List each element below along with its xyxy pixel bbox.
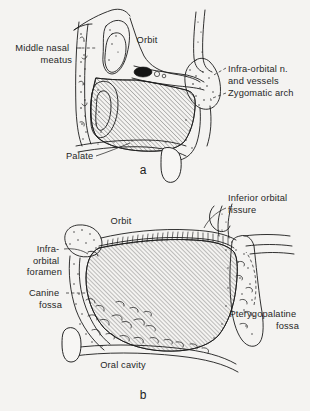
svg-text:Infra-orbital n. and ves: Infra-orbital n. and vessels [228, 64, 291, 86]
panel-b-drawing [62, 204, 294, 372]
panel-letter-a: a [140, 163, 147, 177]
svg-text:Pterygopalatine fossa: Pterygopalatine fossa [229, 309, 299, 331]
label-middle-nasal-meatus-line1: Middle nasal [15, 43, 69, 53]
anatomical-figure: Middle nasal meatus Orbit Infra-orbital … [0, 0, 310, 411]
label-inferior-orbital-fissure-line2: fissure [228, 205, 256, 215]
label-middle-nasal-meatus-line2: meatus [41, 55, 73, 65]
svg-text:Middle nasal meatus: Middle nasal meatus [15, 43, 72, 65]
label-canine-fossa-line1: Canine [29, 288, 59, 298]
label-palate: Palate [66, 151, 93, 161]
label-orbit-b: Orbit [111, 216, 132, 226]
svg-text:Canine fossa: Canine fossa [29, 288, 63, 310]
leader-infra-orbital-foramen [64, 249, 88, 254]
label-infra-orbital-nerve-line2: and vessels [228, 76, 279, 86]
leader-inferior-orbital-fissure [204, 208, 226, 228]
label-pterygopalatine-fossa-line1: Pterygopalatine [229, 309, 296, 319]
label-infra-orbital-foramen-line1: Infra- [37, 244, 60, 254]
label-pterygopalatine-fossa-line2: fossa [276, 321, 300, 331]
infra-orbital-bundle [134, 67, 152, 77]
label-orbit-a: Orbit [137, 35, 158, 45]
tooth-b [62, 328, 81, 362]
label-infra-orbital-nerve-line1: Infra-orbital n. [228, 64, 288, 74]
label-infra-orbital-foramen-line3: foramen [27, 267, 62, 277]
leader-pterygopalatine-fossa [246, 252, 256, 305]
label-canine-fossa-line2: fossa [39, 300, 63, 310]
svg-text:Inferior orbital fissure: Inferior orbital fissure [228, 193, 290, 215]
label-inferior-orbital-fissure-line1: Inferior orbital [228, 193, 287, 203]
label-infra-orbital-foramen-line2: orbital [33, 256, 59, 266]
label-zygomatic-arch: Zygomatic arch [228, 88, 294, 98]
panel-letter-b: b [140, 388, 147, 402]
svg-text:Infra- orbital for: Infra- orbital foramen [27, 244, 62, 277]
figure-canvas: Middle nasal meatus Orbit Infra-orbital … [0, 0, 310, 411]
label-oral-cavity: Oral cavity [100, 360, 146, 370]
leader-zygomatic-arch [210, 93, 226, 99]
tooth-a [161, 148, 181, 183]
leader-infra-orbital [212, 68, 226, 76]
